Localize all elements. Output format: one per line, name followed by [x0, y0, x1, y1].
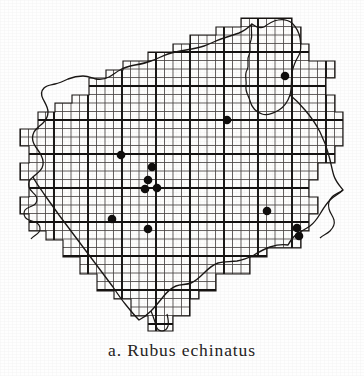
occurrence-dot[interactable] [117, 151, 126, 160]
occurrence-dot[interactable] [144, 225, 153, 234]
occurrence-dot[interactable] [223, 116, 232, 125]
map-canvas [0, 0, 364, 340]
occurrence-dot[interactable] [141, 185, 150, 194]
occurrence-dot[interactable] [295, 232, 304, 241]
occurrence-dot[interactable] [153, 184, 162, 193]
figure-caption: a. Rubus echinatus [0, 340, 364, 361]
occurrence-dot[interactable] [108, 215, 117, 224]
occurrence-dot[interactable] [148, 163, 157, 172]
distribution-map-figure: a. Rubus echinatus [0, 0, 364, 376]
occurrence-dot[interactable] [281, 72, 290, 81]
eastern-boundary-detail [320, 190, 343, 238]
occurrence-dot[interactable] [144, 176, 153, 185]
occurrence-dot[interactable] [263, 207, 272, 216]
occurrence-dot[interactable] [293, 224, 302, 233]
